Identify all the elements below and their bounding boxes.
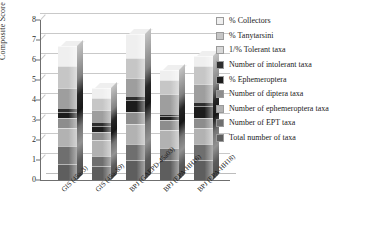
bar-segment (92, 132, 111, 140)
bar-segment (126, 96, 145, 100)
bar-segment (194, 118, 213, 128)
y-tick-label: 8 (32, 16, 36, 24)
bar-stack[interactable] (92, 88, 111, 180)
bar-segment (58, 146, 77, 164)
bar-segment (194, 56, 213, 66)
bar-segment (160, 94, 179, 114)
bar-stack[interactable] (126, 34, 145, 180)
bar-segment (194, 66, 213, 84)
legend-item[interactable]: 1/% Tolerant taxa (216, 43, 384, 58)
bar-segment (160, 70, 179, 80)
bar-segment (194, 102, 213, 106)
bar-side-face (145, 28, 151, 180)
legend-label: % Tanytarsini (229, 32, 273, 40)
bar-segment (160, 114, 179, 116)
legend-label: Total number of taxa (229, 134, 296, 142)
legend-item[interactable]: % Tanytarsini (216, 29, 384, 44)
y-tick-label: 5 (32, 76, 36, 84)
bar-segment (58, 118, 77, 128)
y-tick-label: 1 (32, 156, 36, 164)
legend-item[interactable]: Number of intolerant taxa (216, 58, 384, 73)
y-axis-title: Composite Score (0, 2, 7, 60)
bar-segments (92, 88, 111, 180)
bar-side-face (77, 40, 83, 180)
bar-segment (160, 80, 179, 94)
legend-swatch-icon (216, 134, 224, 142)
bar-segment (126, 34, 145, 58)
legend-swatch-icon (216, 119, 224, 127)
bar-side-face (179, 64, 185, 180)
x-axis-labels: GIS (45a-3)GIS (45a-89)BPJ (GAEPD-45a03)… (0, 182, 240, 248)
bar-segment (92, 126, 111, 132)
legend-item[interactable]: Number of diptera taxa (216, 87, 384, 102)
legend-item[interactable]: Number of ephemeroptera taxa (216, 102, 384, 117)
bar-segments (126, 34, 145, 180)
gridline (40, 13, 230, 14)
bar-segment (92, 98, 111, 110)
legend-label: % Collectors (229, 17, 271, 25)
bar-segment (126, 78, 145, 96)
legend-label: Number of diptera taxa (229, 90, 303, 98)
bar-segment (58, 112, 77, 118)
bar-segment (126, 144, 145, 160)
bar-segment (92, 88, 111, 98)
bar-segment (92, 140, 111, 156)
bar-segment (126, 58, 145, 78)
legend-item[interactable]: % Ephemeroptera (216, 72, 384, 87)
legend-swatch-icon (216, 46, 224, 54)
bar-segment (160, 120, 179, 130)
bar-segment (160, 116, 179, 120)
bar-segment (194, 106, 213, 118)
bar-segment (126, 124, 145, 144)
y-tick-label: 2 (32, 136, 36, 144)
bar-segment (92, 110, 111, 122)
y-tick-label: 6 (32, 56, 36, 64)
bar-segment (58, 108, 77, 112)
legend-label: Number of ephemeroptera taxa (229, 105, 329, 113)
legend-item[interactable]: Number of EPT taxa (216, 116, 384, 131)
legend-swatch-icon (216, 90, 224, 98)
bar-segments (58, 46, 77, 180)
y-tick-label: 7 (32, 36, 36, 44)
bar-segment (194, 84, 213, 102)
bar-segment (58, 46, 77, 66)
legend-item[interactable]: Total number of taxa (216, 131, 384, 146)
bar-segment (126, 100, 145, 112)
bar-stack[interactable] (58, 46, 77, 180)
legend-swatch-icon (216, 105, 224, 113)
legend-label: % Ephemeroptera (229, 76, 287, 84)
bar-segment (58, 66, 77, 88)
legend-swatch-icon (216, 76, 224, 84)
legend-swatch-icon (216, 61, 224, 69)
bar-segment (92, 156, 111, 166)
bar-segment (126, 112, 145, 124)
bar-segment (92, 122, 111, 126)
y-tick-label: 3 (32, 116, 36, 124)
bar-segment (58, 88, 77, 108)
legend-swatch-icon (216, 17, 224, 25)
legend-swatch-icon (216, 32, 224, 40)
bar-segment (194, 128, 213, 144)
legend-item[interactable]: % Collectors (216, 14, 384, 29)
chart-legend: % Collectors% Tanytarsini1/% Tolerant ta… (216, 14, 384, 145)
y-axis-ticks: 012345678 (22, 20, 36, 180)
y-tick-label: 4 (32, 96, 36, 104)
legend-label: 1/% Tolerant taxa (229, 46, 286, 54)
composite-score-chart: Composite Score 012345678 GIS (45a-3)GIS… (0, 0, 386, 249)
legend-label: Number of EPT taxa (229, 119, 295, 127)
bar-segment (58, 128, 77, 146)
legend-label: Number of intolerant taxa (229, 61, 312, 69)
